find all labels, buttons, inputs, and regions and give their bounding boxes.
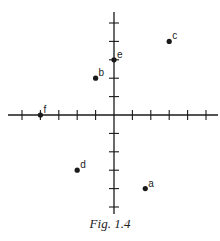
point-e: e — [111, 49, 123, 63]
point-label: b — [99, 67, 105, 78]
point-label: e — [117, 49, 123, 60]
point-label: d — [80, 159, 86, 170]
point-marker — [93, 76, 98, 81]
point-marker — [143, 186, 148, 191]
figure-caption: Fig. 1.4 — [0, 216, 220, 232]
point-marker — [38, 112, 43, 117]
point-marker — [111, 57, 116, 62]
point-label: c — [172, 30, 177, 41]
point-marker — [75, 168, 80, 173]
point-d: d — [75, 159, 86, 173]
point-label: a — [148, 178, 154, 189]
point-marker — [167, 39, 172, 44]
point-c: c — [167, 30, 178, 44]
point-a: a — [143, 178, 155, 192]
coordinate-plane: abcdef — [0, 0, 220, 241]
point-label: f — [43, 104, 46, 115]
point-b: b — [93, 67, 105, 81]
